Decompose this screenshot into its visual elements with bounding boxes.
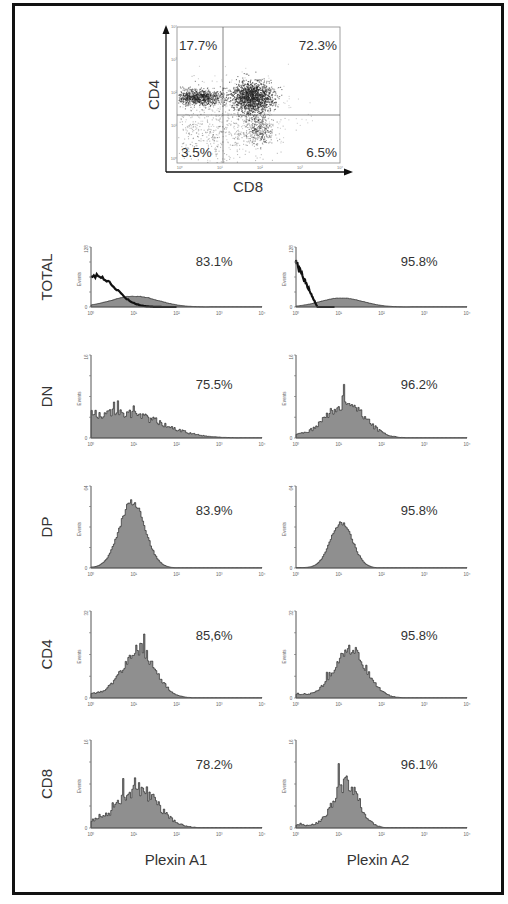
- x-tick-label: 10¹: [335, 442, 342, 447]
- histogram-panel: 160Events10⁰10¹10²10³10⁴96.1%: [282, 739, 471, 837]
- positive-percent-label: 96.1%: [401, 757, 438, 772]
- x-tick-label: 10¹: [130, 572, 137, 577]
- x-tick-label: 10¹: [130, 442, 137, 447]
- x-tick-label: 10⁰: [87, 832, 94, 837]
- y-axis-label-events: Events: [77, 778, 82, 793]
- y-axis-label-events: Events: [282, 649, 287, 664]
- positive-percent-label: 95.8%: [401, 503, 438, 518]
- y-max-label: 64: [289, 485, 294, 491]
- y-axis-label-events: Events: [77, 271, 82, 286]
- y-zero-label: 0: [85, 305, 88, 310]
- x-tick-label: 10³: [216, 572, 223, 577]
- y-axis-label-events: Events: [77, 521, 82, 536]
- x-tick-label: 10⁰: [87, 572, 94, 577]
- x-tick-label: 10³: [421, 702, 428, 707]
- y-zero-label: 0: [290, 696, 293, 701]
- positive-percent-label: 83.1%: [196, 254, 233, 269]
- histogram-fill: [296, 522, 467, 568]
- y-max-label: 128: [289, 245, 294, 253]
- y-zero-label: 0: [290, 826, 293, 831]
- x-tick-label: 10³: [216, 442, 223, 447]
- y-zero-label: 0: [85, 566, 88, 571]
- positive-percent-label: 95.8%: [401, 628, 438, 643]
- x-tick-label: 10²: [378, 311, 385, 316]
- x-tick-label: 10⁰: [292, 311, 299, 316]
- y-max-label: 16: [289, 354, 294, 360]
- y-tick-label: 10²: [171, 90, 177, 95]
- x-tick-label: 10²: [173, 702, 180, 707]
- x-tick-label: 10⁴: [464, 442, 471, 447]
- row-label: CD8: [38, 769, 55, 799]
- x-tick-label: 10²: [378, 832, 385, 837]
- histogram-panel: 160Events10⁰10¹10²10³10⁴78.2%: [77, 739, 266, 837]
- y-zero-label: 0: [290, 436, 293, 441]
- histogram-row-total: TOTAL1280Events10⁰10¹10²10³10⁴83.1%1280E…: [38, 245, 471, 316]
- histogram-panel: 320Events10⁰10¹10²10³10⁴95.8%: [282, 610, 471, 707]
- x-tick-label: 10¹: [130, 311, 137, 316]
- histogram-fill: [296, 645, 467, 698]
- y-axis-label-events: Events: [77, 649, 82, 664]
- y-zero-label: 0: [85, 826, 88, 831]
- y-axis-arrowhead-icon: [163, 25, 170, 34]
- histogram-fill: [91, 401, 262, 438]
- x-tick-label: 10³: [421, 442, 428, 447]
- histogram-panel: 640Events10⁰10¹10²10³10⁴83.9%: [77, 485, 266, 577]
- y-tick-label: 10³: [171, 57, 177, 62]
- x-tick-label: 10¹: [335, 311, 342, 316]
- y-max-label: 64: [84, 485, 89, 491]
- flow-cytometry-figure: 17.7% 72.3% 3.5% 6.5% CD8 CD4 10⁰10⁰10¹1…: [0, 0, 508, 904]
- y-max-label: 128: [84, 245, 89, 253]
- positive-percent-label: 95.8%: [401, 254, 438, 269]
- x-tick-label: 10²: [173, 832, 180, 837]
- x-tick-label: 10⁰: [87, 442, 94, 447]
- histogram-fill: [91, 296, 262, 307]
- y-zero-label: 0: [290, 566, 293, 571]
- x-tick-label: 10⁴: [464, 311, 471, 316]
- positive-percent-label: 96.2%: [401, 377, 438, 392]
- x-tick-label: 10¹: [130, 832, 137, 837]
- x-tick-label: 10²: [173, 442, 180, 447]
- x-tick-label: 10⁴: [259, 572, 266, 577]
- x-tick-label: 10¹: [217, 165, 223, 170]
- y-max-label: 32: [84, 610, 89, 616]
- x-tick-label: 10⁴: [259, 832, 266, 837]
- x-tick-label: 10²: [173, 311, 180, 316]
- histogram-row-dn: DN160Events10⁰10¹10²10³10⁴75.5%160Events…: [38, 354, 471, 447]
- column-label-plexin-a1: Plexin A1: [145, 851, 208, 868]
- y-tick-label: 10⁴: [171, 24, 177, 29]
- x-axis-label-cd8: CD8: [233, 178, 263, 195]
- x-tick-label: 10³: [216, 311, 223, 316]
- x-tick-label: 10⁴: [464, 832, 471, 837]
- x-tick-label: 10³: [216, 702, 223, 707]
- x-tick-label: 10²: [173, 572, 180, 577]
- quadrant-upper-right-percent: 72.3%: [299, 38, 337, 53]
- row-label: DP: [38, 517, 55, 538]
- quadrant-lower-left-percent: 3.5%: [181, 145, 212, 160]
- y-zero-label: 0: [85, 696, 88, 701]
- histogram-panel: 160Events10⁰10¹10²10³10⁴96.2%: [282, 354, 471, 447]
- x-tick-label: 10⁰: [292, 832, 299, 837]
- y-zero-label: 0: [85, 436, 88, 441]
- x-tick-label: 10¹: [130, 702, 137, 707]
- histogram-fill: [91, 778, 262, 828]
- y-tick-label: 10⁰: [171, 156, 177, 161]
- row-label: TOTAL: [38, 254, 55, 301]
- x-tick-label: 10⁴: [259, 702, 266, 707]
- y-tick-label: 10¹: [171, 123, 177, 128]
- histogram-fill: [296, 298, 467, 307]
- histogram-panel: 1280Events10⁰10¹10²10³10⁴95.8%: [282, 245, 471, 316]
- histogram-row-dp: DP640Events10⁰10¹10²10³10⁴83.9%640Events…: [38, 485, 471, 577]
- histogram-row-cd8: CD8160Events10⁰10¹10²10³10⁴78.2%160Event…: [38, 739, 471, 837]
- y-axis-label-cd4: CD4: [145, 80, 162, 110]
- x-tick-label: 10⁰: [292, 572, 299, 577]
- y-max-label: 16: [84, 739, 89, 745]
- positive-percent-label: 75.5%: [196, 377, 233, 392]
- positive-percent-label: 83.9%: [196, 503, 233, 518]
- x-tick-label: 10¹: [335, 832, 342, 837]
- x-tick-label: 10¹: [335, 572, 342, 577]
- cd4-cd8-dot-plot: 17.7% 72.3% 3.5% 6.5% CD8 CD4 10⁰10⁰10¹1…: [145, 24, 353, 195]
- histogram-fill: [296, 384, 467, 438]
- x-tick-label: 10⁴: [259, 311, 266, 316]
- positive-percent-label: 78.2%: [196, 757, 233, 772]
- y-axis-label-events: Events: [77, 391, 82, 406]
